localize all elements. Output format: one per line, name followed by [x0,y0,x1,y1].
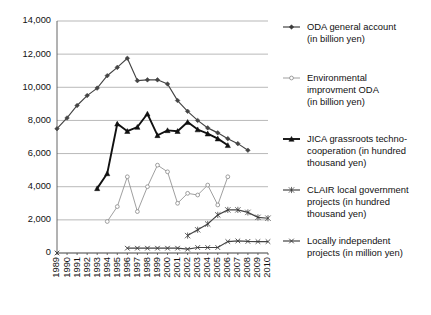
x-tick-label: 2000 [162,257,172,278]
x-tick-label: 2006 [222,257,232,278]
x-tick-label: 2010 [262,257,272,278]
legend-item-1[interactable]: Environmentalimprovment ODA(in billion y… [283,72,380,106]
y-axis-tick-labels: 14,00012,00010,0008,0006,0004,0002,0000 [23,15,51,257]
x-tick-label: 1995 [112,257,122,278]
x-tick-label: 1997 [132,257,142,278]
legend-swatch-cross-icon [283,239,300,244]
x-tick-label: 2004 [202,257,212,278]
y-tick-label: 12,000 [23,49,51,59]
legend-item-2[interactable]: JICA grassroots techno-cooperation (in h… [283,133,407,167]
x-tick-label: 2002 [182,257,192,278]
legend-label-line: thousand yen) [307,157,366,168]
series-1 [105,163,229,223]
legend-swatch-diamond-icon [283,25,300,30]
x-tick-label: 2009 [252,257,262,278]
x-tick-label: 1999 [152,257,162,278]
legend-item-0[interactable]: ODA general account(in billion yen) [283,21,397,44]
x-tick-label: 1993 [92,257,102,278]
legend-label-line: cooperation (in hundred [307,145,406,156]
series-0 [55,56,251,153]
series-3 [185,207,271,239]
legend-item-3[interactable]: CLAIR local governmentprojects (in hundr… [283,184,409,218]
series-2 [95,111,231,190]
gridlines-group [57,21,268,253]
legend-label-line: improvment ODA [307,84,380,95]
x-axis-tick-labels: 1989199019911992199319941995199619971998… [51,253,272,278]
x-tick-label: 2005 [212,257,222,278]
x-tick-label: 2007 [232,257,242,278]
x-tick-label: 2001 [172,257,182,278]
legend-label-line: thousand yen) [307,208,366,219]
x-tick-label: 1991 [72,257,82,278]
legend-swatch-circle-icon [283,76,300,80]
x-tick-label: 1998 [142,257,152,278]
y-tick-label: 14,000 [23,15,51,25]
axis-lines [57,21,268,253]
chart-legend: ODA general account(in billion yen)Envir… [283,21,409,258]
legend-label-line: (in billion yen) [307,96,365,107]
x-tick-label: 1992 [82,257,92,278]
legend-label-line: ODA general account [307,21,397,32]
x-tick-label: 2008 [242,257,252,278]
legend-label-line: projects (in million yen) [307,247,403,258]
y-tick-label: 0 [46,247,51,257]
x-tick-label: 1989 [51,257,61,278]
y-tick-label: 6,000 [28,148,51,158]
x-tick-label: 1994 [102,257,112,278]
line-chart-canvas: 14,00012,00010,0008,0006,0004,0002,0000 … [0,0,431,315]
legend-label-line: Locally independent [307,235,391,246]
legend-label-line: CLAIR local government [307,184,409,195]
y-tick-label: 4,000 [28,181,51,191]
x-tick-label: 1990 [62,257,72,278]
legend-label-line: (in billion yen) [307,33,365,44]
legend-item-4[interactable]: Locally independentprojects (in million … [283,235,403,258]
chart-figure: 14,00012,00010,0008,0006,0004,0002,0000 … [0,0,431,315]
legend-label-line: projects (in hundred [307,196,390,207]
legend-label-line: JICA grassroots techno- [307,133,407,144]
legend-label-line: Environmental [307,72,367,83]
legend-swatch-triangle-icon [283,136,300,141]
legend-swatch-star-icon [283,187,300,193]
y-tick-label: 2,000 [28,214,51,224]
x-tick-label: 1996 [122,257,132,278]
x-tick-label: 2003 [192,257,202,278]
y-tick-label: 10,000 [23,82,51,92]
y-tick-label: 8,000 [28,115,51,125]
data-series-group [55,56,271,255]
